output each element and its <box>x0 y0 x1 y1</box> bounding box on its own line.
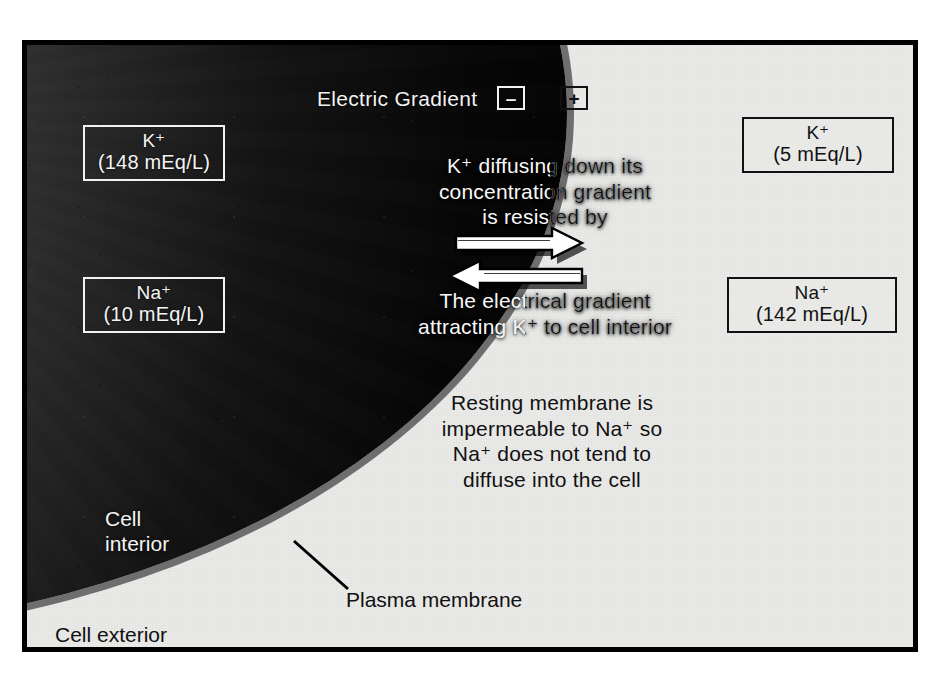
ion-symbol-k-outside: K⁺ <box>754 122 882 143</box>
label-plasma-membrane: Plasma membrane <box>346 588 522 612</box>
concentration-box-na-inside: Na⁺ (10 mEq/L) <box>83 277 225 333</box>
ion-symbol-na-inside: Na⁺ <box>95 282 213 303</box>
plus-charge-badge: + <box>560 86 588 110</box>
annotation-resting-line4: diffuse into the cell <box>387 467 717 493</box>
concentration-box-k-inside: K⁺ (148 mEq/L) <box>83 125 225 181</box>
label-cell-interior-line1: Cell <box>105 507 169 532</box>
ion-value-na-inside: (10 mEq/L) <box>95 303 213 325</box>
annotation-resting-line3: Na⁺ does not tend to <box>387 441 717 467</box>
minus-charge-badge: – <box>497 86 525 110</box>
annotation-resting-line2: impermeable to Na⁺ so <box>387 416 717 442</box>
figure-frame: Electric Gradient – + K⁺ (148 mEq/L) Na⁺… <box>22 40 918 652</box>
annotation-resting-line1: Resting membrane is <box>387 390 717 416</box>
electric-gradient-label: Electric Gradient <box>317 87 477 111</box>
ion-symbol-na-outside: Na⁺ <box>739 282 885 303</box>
label-cell-interior: Cell interior <box>105 507 169 557</box>
ion-symbol-k-inside: K⁺ <box>95 130 213 151</box>
label-cell-interior-line2: interior <box>105 532 169 557</box>
concentration-box-na-outside: Na⁺ (142 mEq/L) <box>727 277 897 333</box>
ion-value-k-inside: (148 mEq/L) <box>95 151 213 173</box>
concentration-box-k-outside: K⁺ (5 mEq/L) <box>742 117 894 173</box>
ion-value-na-outside: (142 mEq/L) <box>739 303 885 325</box>
label-cell-exterior: Cell exterior <box>55 623 167 647</box>
ion-value-k-outside: (5 mEq/L) <box>754 143 882 165</box>
annotation-resting-membrane: Resting membrane is impermeable to Na⁺ s… <box>387 390 717 492</box>
